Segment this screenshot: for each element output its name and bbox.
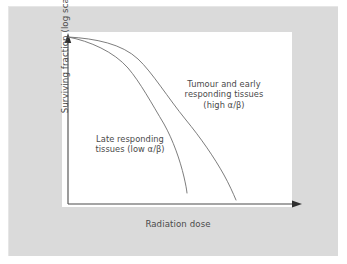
annotation-tumour-line-2: responding tissues (176, 89, 272, 99)
annotation-tumour-line-1: Tumour and early (176, 79, 272, 89)
y-axis-title: Surviving fraction (log scale) (60, 0, 70, 126)
curve-tumour-early-responding (68, 37, 236, 200)
x-axis-title: Radiation dose (113, 219, 243, 229)
curve-late-responding (68, 37, 187, 193)
annotation-tumour-early-responding: Tumour and early responding tissues (hig… (176, 79, 272, 110)
x-axis-arrowhead (292, 201, 302, 208)
annotation-late-line-2: tissues (low α/β) (80, 144, 180, 154)
annotation-late-line-1: Late responding (80, 134, 180, 144)
annotation-tumour-line-3: (high α/β) (176, 100, 272, 110)
annotation-late-responding: Late responding tissues (low α/β) (80, 134, 180, 155)
